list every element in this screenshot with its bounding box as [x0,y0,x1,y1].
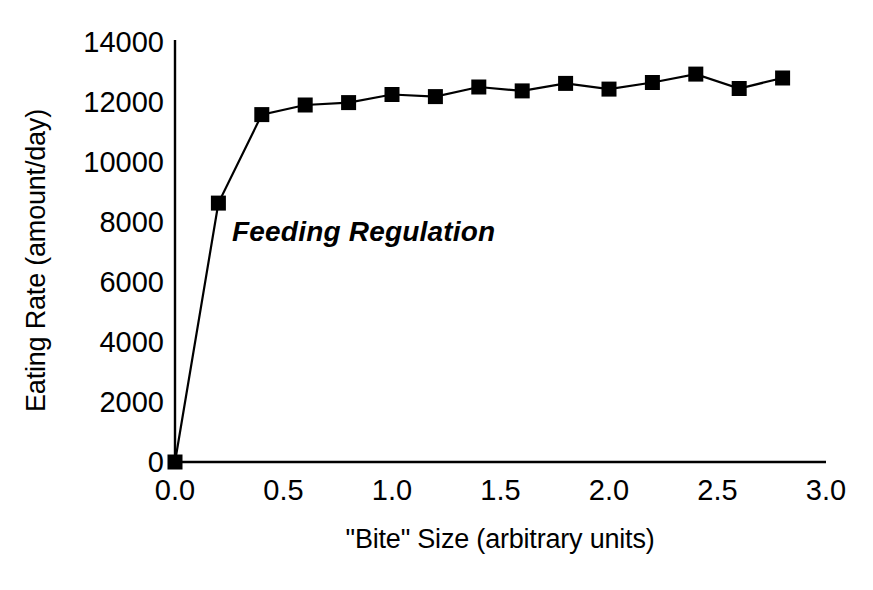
data-point-marker [688,67,703,82]
plot-area [0,0,873,590]
data-point-marker [558,76,573,91]
data-point-marker [211,196,226,211]
data-point-marker [645,75,660,90]
data-point-marker [298,98,313,113]
data-series-line [175,74,783,462]
feeding-regulation-chart: Eating Rate (amount/day) "Bite" Size (ar… [0,0,873,590]
data-point-marker [428,89,443,104]
data-point-marker [775,71,790,86]
data-point-marker [602,82,617,97]
data-point-marker [471,80,486,95]
data-series-markers [168,67,791,470]
data-point-marker [732,81,747,96]
data-point-marker [385,87,400,102]
data-point-marker [168,455,183,470]
data-point-marker [341,95,356,110]
data-point-marker [254,107,269,122]
data-point-marker [515,83,530,98]
